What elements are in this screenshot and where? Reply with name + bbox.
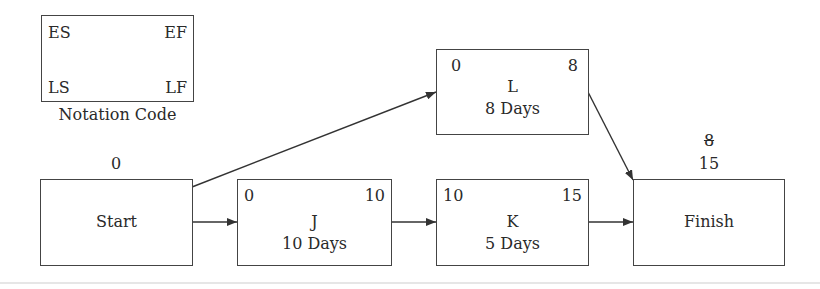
legend-es: ES <box>48 24 71 42</box>
legend-caption: Notation Code <box>41 106 194 124</box>
start-above-value: 0 <box>40 155 192 173</box>
node-l-es: 0 <box>451 57 461 75</box>
node-l-ef: 8 <box>568 57 578 75</box>
notation-legend-box: ES EF LS LF <box>41 15 194 102</box>
finish-above-value: 15 <box>633 155 785 173</box>
node-k: 10 15 K 5 Days <box>436 179 589 266</box>
bottom-divider <box>0 282 820 284</box>
node-k-es: 10 <box>443 187 463 205</box>
node-j: 0 10 J 10 Days <box>237 179 392 266</box>
legend-lf: LF <box>165 79 187 97</box>
edge-l-finish <box>588 92 633 180</box>
node-j-name: J <box>238 213 391 231</box>
edge-start-l <box>192 92 436 187</box>
node-l-name: L <box>437 78 588 96</box>
legend-ef: EF <box>164 24 187 42</box>
finish-above-struck-value: 8 <box>633 132 785 150</box>
node-k-duration: 5 Days <box>437 235 588 253</box>
legend-ls: LS <box>48 79 70 97</box>
node-finish: Finish <box>633 179 785 266</box>
node-j-es: 0 <box>244 187 254 205</box>
node-l: 0 8 L 8 Days <box>436 49 589 135</box>
node-l-duration: 8 Days <box>437 100 588 118</box>
node-k-ef: 15 <box>562 187 582 205</box>
node-start: Start <box>40 179 193 266</box>
node-j-duration: 10 Days <box>238 235 391 253</box>
node-start-label: Start <box>41 213 192 231</box>
node-k-name: K <box>437 213 588 231</box>
node-finish-label: Finish <box>634 213 784 231</box>
node-j-ef: 10 <box>365 187 385 205</box>
